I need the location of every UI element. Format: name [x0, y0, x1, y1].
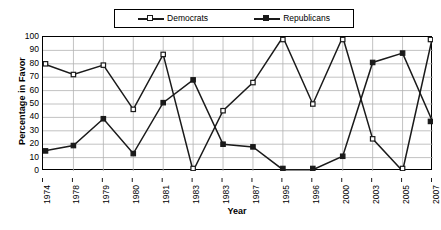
data-point-marker [71, 143, 75, 147]
plot-area [42, 36, 432, 170]
x-tick-label: 2007 [432, 172, 441, 204]
data-point-marker [311, 102, 315, 106]
data-point-marker [71, 72, 75, 76]
legend-marker-open-square-icon [138, 14, 164, 23]
legend-label-democrats: Democrats [167, 14, 208, 23]
y-tick-label: 80 [20, 59, 39, 68]
data-point-marker [221, 142, 225, 146]
x-tick-label: 2003 [372, 172, 381, 204]
y-tick-label: 100 [20, 32, 39, 41]
x-tick-label: 2000 [342, 172, 351, 204]
data-point-marker [131, 151, 135, 155]
caption-sliver [0, 222, 438, 230]
y-tick-label: 10 [20, 153, 39, 162]
y-tick-label: 0 [20, 166, 39, 175]
x-tick-label: 1983 [222, 172, 231, 204]
data-point-marker [251, 80, 255, 84]
data-point-marker [251, 145, 255, 149]
chart-legend: Democrats Republicans [114, 9, 354, 28]
x-axis-tick-labels: 1974197819791980198119831983198719951996… [42, 172, 432, 204]
x-tick-label: 1974 [43, 172, 52, 204]
x-tick-label: 1981 [162, 172, 171, 204]
data-point-marker [428, 119, 432, 123]
y-tick-label: 50 [20, 99, 39, 108]
y-tick-label: 30 [20, 126, 39, 135]
data-point-marker [43, 149, 47, 153]
data-point-marker [370, 60, 374, 64]
y-tick-label: 60 [20, 86, 39, 95]
data-point-marker [341, 37, 345, 41]
series-line-republicans [44, 53, 433, 170]
data-point-marker [101, 63, 105, 67]
data-point-marker [281, 37, 285, 41]
data-point-marker [191, 78, 195, 82]
x-tick-label: 1995 [282, 172, 291, 204]
y-tick-label: 90 [20, 45, 39, 54]
x-tick-label: 1979 [102, 172, 111, 204]
data-point-marker [221, 109, 225, 113]
plot-svg [43, 37, 433, 171]
x-tick-label: 1983 [192, 172, 201, 204]
y-tick-label: 40 [20, 112, 39, 121]
x-tick-label: 1987 [252, 172, 261, 204]
legend-item-republicans: Republicans [254, 14, 330, 23]
y-tick-label: 70 [20, 72, 39, 81]
legend-marker-filled-square-icon [254, 14, 280, 23]
data-point-marker [161, 100, 165, 104]
data-point-marker [43, 62, 47, 66]
x-axis-ticks [42, 169, 432, 174]
x-tick-label: 1996 [312, 172, 321, 204]
legend-item-democrats: Democrats [138, 14, 208, 23]
data-point-marker [161, 52, 165, 56]
data-point-marker [370, 137, 374, 141]
data-point-marker [131, 107, 135, 111]
legend-label-republicans: Republicans [283, 14, 330, 23]
x-axis-title: Year [42, 206, 432, 216]
data-point-marker [428, 37, 432, 41]
x-tick-label: 1980 [132, 172, 141, 204]
data-point-marker [101, 117, 105, 121]
y-axis-tick-labels: 1009080706050403020100 [20, 32, 39, 172]
x-tick-label: 2005 [402, 172, 411, 204]
data-point-marker [400, 51, 404, 55]
y-tick-label: 20 [20, 139, 39, 148]
data-point-marker [341, 154, 345, 158]
x-tick-label: 1978 [72, 172, 81, 204]
